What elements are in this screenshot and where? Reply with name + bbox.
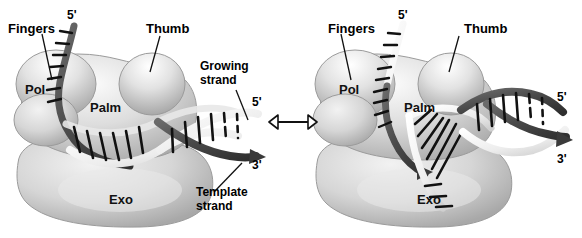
label-template-strand-line2: strand	[196, 200, 233, 213]
label-pol-left: Pol	[25, 82, 45, 97]
label-pol-right: Pol	[339, 82, 359, 97]
label-exo-left: Exo	[109, 192, 133, 207]
label-5-prime-template-right: 5'	[398, 8, 408, 22]
equilibrium-double-arrow-icon	[268, 110, 318, 134]
label-thumb-left: Thumb	[146, 22, 189, 36]
label-growing-strand-line1: Growing	[200, 60, 249, 73]
label-5-prime-duplex-right: 5'	[557, 90, 567, 104]
label-exo-right: Exo	[417, 192, 441, 207]
thumb-domain-shape	[119, 53, 185, 115]
figure-canvas: Fingers 5' Thumb Pol Palm Exo Growing st…	[0, 0, 582, 238]
label-fingers-left: Fingers	[8, 22, 55, 36]
label-fingers-right: Fingers	[328, 22, 375, 36]
label-growing-strand-line2: strand	[200, 74, 237, 87]
label-5-prime-growing-left: 5'	[252, 95, 262, 109]
label-palm-right: Palm	[404, 100, 435, 115]
label-3-prime-template-right: 3'	[557, 152, 567, 166]
label-template-strand-line1: Template	[196, 186, 248, 199]
label-palm-left: Palm	[90, 100, 121, 115]
label-3-prime-template-left: 3'	[252, 158, 262, 172]
label-5-prime-template-left: 5'	[67, 8, 77, 22]
label-thumb-right: Thumb	[464, 22, 507, 36]
